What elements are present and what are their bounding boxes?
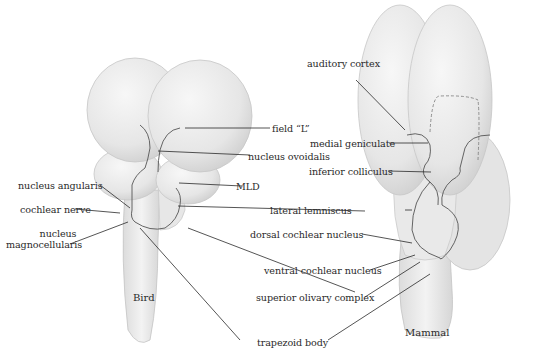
label-nucleus-ovoidalis: nucleus ovoidalis — [248, 151, 330, 162]
caption-mammal: Mammal — [405, 327, 449, 338]
label-ventral-cochlear-nucleus: ventral cochlear nucleus — [264, 265, 382, 276]
label-nucleus-magnocellularis-line1: nucleus — [28, 228, 88, 239]
label-auditory-cortex: auditory cortex — [307, 58, 380, 69]
auditory-pathway-figure: nucleus angularis cochlear nerve nucleus… — [0, 0, 540, 360]
label-lateral-lemniscus: lateral lemniscus — [270, 205, 352, 216]
label-medial-geniculate: medial geniculate — [310, 138, 395, 149]
label-dorsal-cochlear-nucleus: dorsal cochlear nucleus — [250, 229, 363, 240]
label-nucleus-angularis: nucleus angularis — [18, 180, 103, 191]
label-nucleus-magnocellularis-line2: magnocellularis — [6, 239, 82, 250]
label-inferior-colliculus: inferior colliculus — [309, 166, 393, 177]
label-cochlear-nerve: cochlear nerve — [20, 204, 91, 215]
label-mld: MLD — [236, 181, 260, 192]
label-trapezoid-body: trapezoid body — [257, 337, 328, 348]
bird-brain — [87, 58, 252, 342]
caption-bird: Bird — [133, 292, 155, 303]
label-superior-olivary-complex: superior olivary complex — [256, 292, 374, 303]
label-field-l: field “L” — [272, 123, 310, 134]
